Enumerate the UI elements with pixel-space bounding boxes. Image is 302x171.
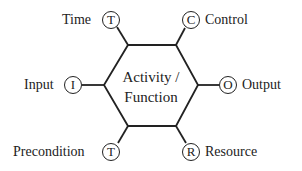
precondition-t-icon: T	[102, 143, 120, 161]
precondition-label: Precondition	[13, 144, 85, 160]
output-label: Output	[242, 77, 281, 93]
center-line-1: Activity /	[104, 67, 198, 87]
connector-control	[176, 28, 185, 45]
time-label: Time	[62, 12, 91, 28]
time-t-icon: T	[102, 11, 120, 29]
resource-r-icon: R	[182, 143, 200, 161]
resource-label: Resource	[205, 144, 257, 160]
connector-resource	[176, 126, 186, 143]
connector-time	[117, 27, 128, 45]
input-label: Input	[24, 77, 54, 93]
center-line-2: Function	[104, 87, 198, 107]
control-c-icon: C	[182, 11, 200, 29]
output-o-icon: O	[219, 76, 237, 94]
control-label: Control	[205, 12, 248, 28]
activity-function-label: Activity / Function	[104, 67, 198, 107]
input-i-icon: I	[64, 76, 82, 94]
connector-precondition	[118, 126, 128, 143]
